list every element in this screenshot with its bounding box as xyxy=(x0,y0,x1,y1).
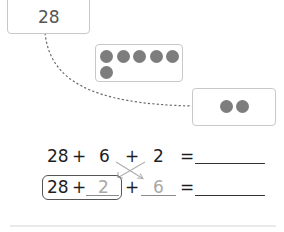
eq2-term3-blank[interactable] xyxy=(141,195,176,196)
eq2-op1: + xyxy=(72,177,86,197)
eq1-term2: 6 xyxy=(99,146,110,166)
dot-icon xyxy=(133,50,146,63)
eq1-answer-blank[interactable] xyxy=(195,163,265,164)
dot-card-two xyxy=(192,88,276,126)
eq2-term1: 28 xyxy=(47,177,69,197)
dot-icon xyxy=(100,66,113,79)
eq1-op2: + xyxy=(125,146,139,166)
eq2-answer-blank[interactable] xyxy=(195,195,265,196)
eq1-term1: 28 xyxy=(47,146,69,166)
eq2-term3-answer: 6 xyxy=(153,177,164,197)
eq2-equals: = xyxy=(180,177,194,197)
eq1-term3: 2 xyxy=(153,146,164,166)
dot-icon xyxy=(166,50,179,63)
dot-icon xyxy=(150,50,163,63)
dot-icon xyxy=(100,50,113,63)
eq1-op1: + xyxy=(72,146,86,166)
eq1-equals: = xyxy=(180,146,194,166)
eq2-op2: + xyxy=(125,177,139,197)
number-card: 28 xyxy=(7,0,90,34)
eq2-term2-blank[interactable] xyxy=(86,195,119,196)
dot-icon xyxy=(117,50,130,63)
dot-icon xyxy=(220,100,233,113)
dot-icon xyxy=(236,100,249,113)
number-card-value: 28 xyxy=(38,7,60,27)
dot-card-six xyxy=(95,44,183,82)
eq2-term2-answer: 2 xyxy=(98,177,109,197)
